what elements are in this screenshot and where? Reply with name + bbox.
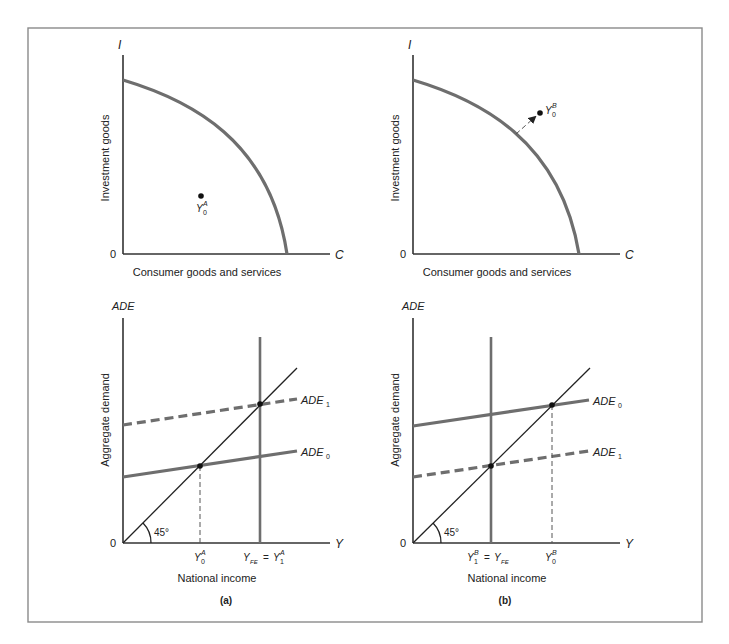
tick-y1b-sub: 1 — [474, 558, 478, 565]
ade1-dashed-line — [123, 399, 297, 425]
angle-label: 45° — [154, 527, 169, 538]
forty-five-degree-line — [413, 368, 590, 543]
tick-y0b-sup: B — [552, 549, 557, 556]
angle-arc — [433, 523, 441, 543]
point-y0b-sub: 0 — [552, 111, 556, 118]
ade1-sub: 1 — [326, 401, 330, 408]
tick-y0a-sup: A — [200, 549, 206, 556]
origin-label: 0 — [110, 537, 116, 549]
ade0-sub: 0 — [326, 453, 330, 460]
ade0-sub: 0 — [618, 402, 622, 409]
expansion-arrow — [516, 117, 535, 134]
x-axis-letter: Y — [335, 537, 344, 551]
ade1-label: ADE — [592, 446, 616, 458]
tick-y0a-sub: 0 — [201, 558, 205, 565]
tick-y1b-sup: B — [474, 549, 479, 556]
ade1-sub: 1 — [618, 453, 622, 460]
origin-label: 0 — [110, 248, 116, 260]
equilibrium-y0b — [549, 402, 555, 408]
y-axis-label: Investment goods — [389, 114, 401, 201]
ade1-dashed-line — [413, 451, 589, 477]
tick-y1a-sub: 1 — [280, 558, 284, 565]
tick-yfe-sub: FE — [501, 559, 510, 565]
ade0-label: ADE — [592, 395, 616, 407]
equilibrium-y1a — [257, 401, 263, 407]
panel-bottom-right-cross: ADE Y 0 Aggregate demand National income… — [389, 300, 634, 606]
panel-bottom-left-cross: ADE Y 0 Aggregate demand National income… — [99, 300, 344, 606]
equilibrium-y1b — [488, 463, 494, 469]
x-axis-label: Consumer goods and services — [423, 266, 572, 278]
tick-y0b-sub: 0 — [552, 558, 556, 565]
tick-yfe-sub: FE — [250, 559, 259, 565]
y-axis-letter: I — [408, 38, 412, 52]
point-y0a — [198, 193, 204, 199]
x-axis-letter: C — [625, 248, 634, 262]
panel-a-label: (a) — [220, 595, 232, 606]
point-y0a-sup: A — [202, 200, 208, 207]
x-axis-letter: C — [335, 248, 344, 262]
y-axis-letter: I — [118, 38, 122, 52]
point-y0b-sup: B — [552, 102, 557, 109]
figure-frame — [28, 28, 702, 622]
panel-b-label: (b) — [499, 595, 512, 606]
x-axis-label: Consumer goods and services — [133, 266, 282, 278]
origin-label: 0 — [400, 248, 406, 260]
y-axis-label: Aggregate demand — [389, 373, 401, 467]
y-axis-letter: ADE — [111, 300, 135, 312]
equilibrium-y0a — [197, 463, 203, 469]
tick-eq: = — [484, 552, 490, 563]
ppf-curve — [123, 80, 287, 254]
tick-eq: = — [263, 552, 269, 563]
y-axis-label: Investment goods — [99, 114, 111, 201]
angle-label: 45° — [444, 527, 459, 538]
angle-arc — [143, 523, 151, 543]
x-axis-letter: Y — [625, 537, 634, 551]
panel-top-right-ppf: I C 0 Investment goods Consumer goods an… — [389, 38, 634, 278]
origin-label: 0 — [400, 537, 406, 549]
x-axis-label: National income — [468, 572, 547, 584]
tick-y1a-sup: A — [279, 549, 285, 556]
y-axis-label: Aggregate demand — [99, 373, 111, 467]
ade0-label: ADE — [300, 446, 324, 458]
point-y0a-sub: 0 — [203, 209, 207, 216]
economics-figure: I C 0 Investment goods Consumer goods an… — [0, 0, 729, 644]
ade1-label: ADE — [300, 394, 324, 406]
panel-top-left-ppf: I C 0 Investment goods Consumer goods an… — [99, 38, 344, 278]
ade0-line — [413, 400, 589, 426]
y-axis-letter: ADE — [401, 300, 425, 312]
point-y0b — [537, 110, 543, 116]
x-axis-label: National income — [178, 572, 257, 584]
